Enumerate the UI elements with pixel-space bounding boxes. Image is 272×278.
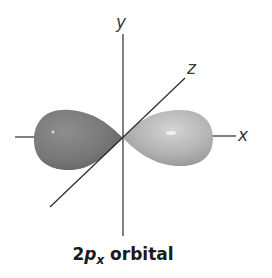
caption-prefix: 2: [72, 244, 84, 264]
orbital-caption: 2px orbital: [0, 246, 246, 263]
y-axis-label: y: [116, 14, 126, 31]
caption-suffix: orbital: [104, 244, 173, 264]
orbital-figure: [0, 0, 272, 278]
orbital-diagram: y z x 2px orbital: [0, 0, 272, 278]
x-axis-label: x: [238, 127, 248, 144]
left-lobe-highlight: [52, 131, 55, 134]
right-lobe-highlight: [166, 131, 176, 135]
right-lobe: [123, 110, 213, 166]
caption-variable: p: [84, 244, 96, 264]
z-axis-label: z: [187, 60, 196, 77]
left-lobe: [34, 110, 123, 170]
caption-subscript: x: [96, 253, 104, 267]
